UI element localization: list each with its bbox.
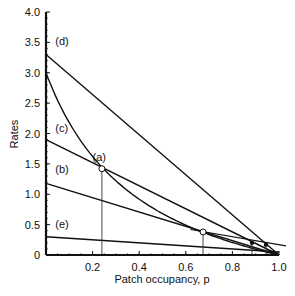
x-tick-label: 0.8 — [225, 261, 240, 273]
equilibrium-filled-dot — [264, 242, 268, 246]
y-tick-label: 0 — [34, 249, 40, 261]
series-label: (a) — [93, 151, 106, 163]
x-tick-label: 0.2 — [85, 261, 100, 273]
plot-area: (a)(b)(c)(d)(e) — [46, 35, 286, 255]
equilibrium-open-circle — [200, 229, 206, 235]
series-label: (d) — [55, 35, 68, 47]
x-tick-label: 0.6 — [178, 261, 193, 273]
series-label: (e) — [55, 218, 68, 230]
series-label: (b) — [55, 163, 68, 175]
y-tick-label: 0.5 — [25, 219, 40, 231]
y-tick-label: 4.0 — [25, 6, 40, 18]
series-c — [46, 140, 279, 255]
y-axis-label: Rates — [8, 119, 20, 148]
y-tick-label: 1.5 — [25, 158, 40, 170]
y-tick-label: 1.0 — [25, 188, 40, 200]
x-tick-label: 0.4 — [132, 261, 147, 273]
series-label: (c) — [55, 122, 68, 134]
x-tick-label: 1.0 — [271, 261, 286, 273]
rates-chart: (a)(b)(c)(d)(e) 00.51.01.52.02.53.03.54.… — [0, 0, 295, 296]
series-d — [46, 55, 279, 255]
equilibrium-filled-dot — [250, 241, 254, 245]
y-tick-label: 3.0 — [25, 67, 40, 79]
y-tick-label: 3.5 — [25, 36, 40, 48]
equilibrium-open-circle — [99, 166, 105, 172]
x-axis-label: Patch occupancy, p — [114, 273, 209, 285]
y-tick-label: 2.5 — [25, 97, 40, 109]
y-tick-label: 2.0 — [25, 128, 40, 140]
series-a — [46, 73, 279, 255]
